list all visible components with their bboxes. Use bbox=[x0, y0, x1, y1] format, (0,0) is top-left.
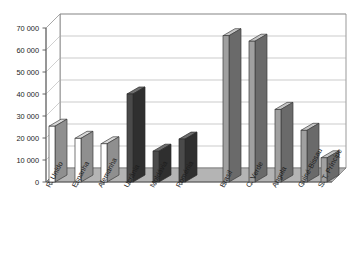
y-label-10000: 10 000 bbox=[16, 156, 39, 165]
chart-canvas: 70 000 60 000 50 000 40 000 30 000 20 00… bbox=[0, 0, 355, 253]
y-label-50000: 50 000 bbox=[16, 68, 39, 77]
y-label-70000: 70 000 bbox=[16, 24, 39, 33]
bar-brasil[interactable] bbox=[223, 29, 241, 182]
bar-front-face bbox=[249, 41, 255, 182]
bar-c-verde[interactable] bbox=[249, 34, 267, 182]
y-label-0: 0 bbox=[35, 178, 39, 187]
y-label-40000: 40 000 bbox=[16, 90, 39, 99]
bar-chart: 70 000 60 000 50 000 40 000 30 000 20 00… bbox=[0, 0, 355, 253]
y-label-20000: 20 000 bbox=[16, 134, 39, 143]
y-label-30000: 30 000 bbox=[16, 112, 39, 121]
bar-side-face bbox=[255, 34, 267, 182]
y-tick-labels: 70 000 60 000 50 000 40 000 30 000 20 00… bbox=[16, 24, 39, 187]
y-axis bbox=[43, 28, 47, 182]
bar-side-face bbox=[229, 29, 241, 182]
bar-front-face bbox=[223, 36, 229, 182]
y-label-60000: 60 000 bbox=[16, 46, 39, 55]
